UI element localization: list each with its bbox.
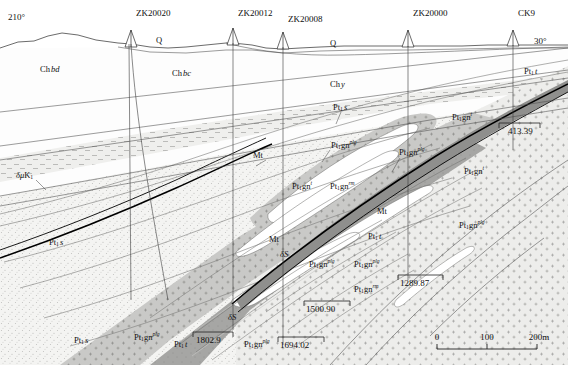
scalebar-tick-0: 0 bbox=[435, 332, 440, 342]
unit-label-Chbd: Chbd bbox=[40, 64, 60, 74]
cross-section-canvas: ZK20020 ZK20012 ZK20008 ZK20000 bbox=[0, 0, 568, 365]
borehole-label-ZK20020: ZK20020 bbox=[136, 8, 171, 18]
unit-label-Q-left: Q bbox=[156, 35, 162, 45]
scalebar-tick-200m: 200m bbox=[529, 332, 550, 342]
marker-label-Mt-3: Mt bbox=[269, 234, 280, 244]
bearing-right-label: 30° bbox=[534, 36, 547, 46]
borehole-label-ZK20012: ZK20012 bbox=[238, 8, 273, 18]
unit-label-Pt1t-mid: Pt1t bbox=[368, 231, 382, 241]
unit-label-Chbc: Chbc bbox=[172, 68, 191, 78]
borehole-label-ZK20008: ZK20008 bbox=[288, 14, 323, 24]
unit-label-Pt1t-bot: Pt1t bbox=[174, 339, 188, 349]
borehole-label-CK9: CK9 bbox=[518, 8, 536, 18]
elevation-label-1500: 1500.90 bbox=[306, 304, 336, 314]
marker-label-deltaS-2: δS bbox=[228, 312, 237, 322]
unit-label-Pt1gn-t3: Pt1gnt bbox=[292, 180, 312, 191]
bearing-left-label: 210° bbox=[8, 12, 26, 22]
borehole-label-ZK20000: ZK20000 bbox=[413, 8, 448, 18]
unit-label-Pt1gn-t1: Pt1gnt bbox=[452, 111, 472, 122]
geological-cross-section-figure: ZK20020 ZK20012 ZK20008 ZK20000 bbox=[0, 0, 568, 365]
strata-group bbox=[0, 45, 568, 365]
elevation-label-413: 413.39 bbox=[508, 126, 533, 136]
scalebar-tick-100: 100 bbox=[480, 332, 494, 342]
elevation-label-1802: 1802.9 bbox=[196, 335, 221, 345]
elevation-label-1694: 1694.02 bbox=[280, 340, 309, 350]
marker-label-deltaS-1: δS bbox=[280, 249, 289, 259]
unit-label-Pt1gn-t2: Pt1gnt bbox=[464, 165, 484, 176]
marker-label-Mt-2: Mt bbox=[377, 206, 388, 216]
unit-label-Chy: Chy bbox=[330, 79, 345, 89]
elevation-label-1289: 1289.87 bbox=[400, 278, 430, 288]
marker-label-Mt-1: Mt bbox=[253, 150, 264, 160]
unit-label-Pt1t-right: Pt1t bbox=[524, 66, 538, 76]
unit-label-Q-right: Q bbox=[330, 38, 336, 48]
